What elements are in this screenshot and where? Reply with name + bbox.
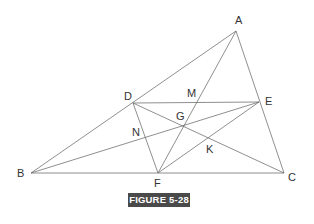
point-label-k: K bbox=[206, 143, 214, 155]
point-label-c: C bbox=[288, 171, 296, 183]
segment-df bbox=[133, 103, 158, 173]
figure-labels: ABCDEFGKNM bbox=[17, 14, 296, 189]
point-label-m: M bbox=[187, 87, 196, 99]
figure-caption: FIGURE 5-28 bbox=[128, 193, 190, 207]
point-label-d: D bbox=[124, 90, 132, 102]
point-label-a: A bbox=[235, 14, 243, 26]
figure-segments bbox=[31, 31, 284, 173]
point-label-g: G bbox=[176, 110, 185, 122]
point-label-b: B bbox=[17, 167, 24, 179]
geometry-figure: ABCDEFGKNM bbox=[0, 0, 314, 224]
point-label-n: N bbox=[132, 126, 140, 138]
segment-dc bbox=[133, 103, 284, 173]
segment-be bbox=[31, 102, 259, 173]
point-label-e: E bbox=[265, 95, 272, 107]
point-label-f: F bbox=[154, 177, 161, 189]
segment-de bbox=[133, 102, 259, 103]
segment-ef bbox=[158, 102, 259, 173]
